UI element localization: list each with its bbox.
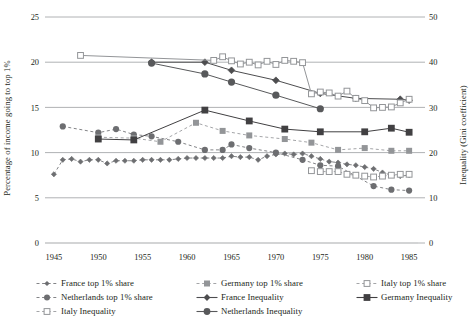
x-axis-tick: 1955 [134,253,151,262]
y-axis-right-tick: 30 [429,104,437,113]
data-point [193,155,198,160]
y-axis-right-title: Inequality (Gini coefficient) [458,40,468,230]
data-point [122,158,127,163]
data-point [344,162,349,167]
data-point [202,147,208,153]
legend-item-germany-top-1-share[interactable]: Germany top 1% share [196,277,356,289]
data-point [211,155,216,160]
legend-item-label: Germany Inequality [381,291,453,303]
data-point [255,62,261,68]
y-axis-left-tick: 5 [35,194,39,203]
data-point [140,157,145,162]
data-point [131,158,136,163]
data-point [184,155,189,160]
y-axis-right-tick: 50 [429,13,437,22]
data-point [211,57,217,63]
data-point [60,157,65,162]
data-point [380,173,386,179]
data-point [69,156,74,161]
legend-item-france-top-1-share[interactable]: France top 1% share [36,277,196,289]
data-point [335,147,341,153]
y-axis-left-tick: 15 [31,104,39,113]
data-point [353,163,358,168]
legend-marker-glyph [44,294,50,300]
data-point [353,95,359,101]
data-point [317,89,323,95]
data-point [228,78,235,85]
data-point [78,53,84,59]
data-point [51,172,56,177]
legend-item-france-inequality[interactable]: France Inequality [196,291,356,303]
legend-marker-icon [36,292,58,303]
data-point [362,145,368,151]
data-point [95,136,102,143]
data-point [238,155,243,160]
data-point [353,172,359,178]
data-point [228,67,235,74]
legend-marker-icon [196,278,218,289]
legend-item-label: Italy Inequality [61,305,116,317]
data-point [317,105,324,112]
x-axis-tick: 1985 [401,253,418,262]
data-point [388,172,394,178]
data-point [87,157,92,162]
data-point [201,107,208,114]
data-point [371,166,376,171]
legend-item-italy-top-1-share[interactable]: Italy top 1% share [356,277,473,289]
legend-marker-icon [196,306,218,317]
data-point [388,125,395,132]
legend-item-netherlands-top-1-share[interactable]: Netherlands top 1% share [36,291,196,303]
data-point [246,145,252,151]
data-point [220,54,226,60]
data-point [344,171,350,177]
data-point [406,96,412,102]
y-axis-right-tick: 10 [429,194,437,203]
data-point [318,156,323,161]
data-point [105,161,110,166]
data-point [201,70,208,77]
data-point [282,57,288,63]
series-line [98,110,409,140]
series-line [63,126,409,190]
y-axis-right-tick: 0 [429,239,433,248]
data-point [148,60,155,67]
data-point [299,157,305,163]
data-point [113,158,118,163]
data-point [229,58,235,64]
data-point [176,156,181,161]
legend-item-label: France top 1% share [61,277,134,289]
data-point [335,169,341,175]
data-point [406,129,413,136]
legend-item-netherlands-inequality[interactable]: Netherlands Inequality [196,305,356,317]
y-axis-left-title: Percentage of income going to top 1% [2,38,12,218]
data-point [397,100,403,106]
x-axis-tick: 1970 [268,253,285,262]
data-point [220,128,226,134]
data-point [246,59,252,65]
legend-marker-icon [196,292,218,303]
data-point [406,171,412,177]
data-point [264,58,270,64]
data-point [317,162,323,168]
data-point [300,151,305,156]
data-point [362,98,368,104]
data-point [326,90,332,96]
series-line [152,62,410,100]
legend-item-italy-inequality[interactable]: Italy Inequality [36,305,196,317]
legend-marker-icon [36,306,58,317]
data-point [193,120,199,126]
legend-item-germany-inequality[interactable]: Germany Inequality [356,291,473,303]
legend-item-label: Italy top 1% share [381,277,446,289]
legend-item-label: Germany top 1% share [221,277,303,289]
data-point [281,126,288,133]
y-axis-right-tick: 40 [429,58,437,67]
data-point [344,88,350,94]
x-axis-tick: 1975 [312,253,329,262]
legend-marker-glyph [204,294,211,301]
data-point [317,128,324,135]
data-point [282,136,288,142]
data-point [388,104,394,110]
legend-marker-icon [356,292,378,303]
data-point [309,91,315,97]
data-point [388,148,394,154]
